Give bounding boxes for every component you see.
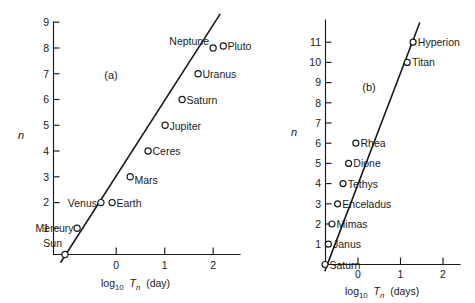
panel-a-ytick-3: 3	[43, 171, 49, 183]
datalabel-mars: Mars	[135, 174, 158, 186]
panel-a-axes	[54, 22, 241, 255]
datalabel-hyperion: Hyperion	[418, 36, 460, 48]
datalabel-mercury: Mercury	[36, 222, 75, 234]
datalabel-rhea: Rhea	[361, 137, 386, 149]
panel-a-y-axis-title: n	[18, 129, 24, 141]
panel-b-y-axis-title: n	[291, 126, 297, 138]
panel-a-xtitle-log: log	[101, 277, 115, 289]
panel-b-x-ticks	[358, 258, 443, 265]
datapoint-janus	[325, 241, 331, 247]
datapoint-hyperion	[410, 39, 416, 45]
datapoint-dione	[346, 160, 352, 166]
datapoint-earth	[109, 200, 115, 206]
datapoint-ceres	[145, 148, 151, 154]
panel-b-ytick-2: 2	[315, 218, 321, 230]
panel-b-x-ticklabels: 0 1 2	[355, 268, 446, 280]
panel-a-y-ticklabels: 9 8 7 6 5 4 3 2 1	[43, 16, 49, 234]
datapoint-rhea	[353, 140, 359, 146]
datapoint-uranus	[195, 71, 201, 77]
panel-a-label: (a)	[104, 69, 117, 81]
panel-b-xtick-2: 2	[440, 268, 446, 280]
panel-a-fit-line	[61, 14, 220, 262]
datalabel-venus: Venus	[68, 197, 97, 209]
panel-b-ytick-6: 6	[315, 137, 321, 149]
panel-a-xtick-2: 2	[210, 259, 216, 271]
panel-b: 11 10 9 8 7 6 5 4 3 2 1 n 0	[291, 20, 460, 300]
datapoint-saturn-b	[322, 262, 328, 268]
datapoint-titan	[404, 59, 410, 65]
panel-a-ytick-6: 6	[43, 93, 49, 105]
panel-b-ytick-1: 1	[315, 238, 321, 250]
datapoint-jupiter	[162, 122, 168, 128]
datapoint-neptune	[210, 45, 216, 51]
panel-b-xtick-1: 1	[398, 268, 404, 280]
datapoint-mimas	[329, 221, 335, 227]
panel-a-y-ticks	[54, 22, 60, 228]
datapoint-sun	[62, 251, 68, 257]
datalabel-mimas: Mimas	[337, 218, 368, 230]
datalabel-janus: Janus	[333, 238, 361, 250]
panel-a-xtitle-unit: (day)	[146, 277, 170, 289]
datalabel-enceladus: Enceladus	[342, 198, 391, 210]
scatter-figure: 9 8 7 6 5 4 3 2 1 n 0 1 2	[0, 0, 475, 303]
panel-a-x-axis-title: log10 Tn (day)	[101, 277, 170, 292]
datalabel-tethys: Tethys	[348, 178, 378, 190]
datalabel-saturn-b: Saturn	[330, 259, 361, 271]
datapoint-enceladus	[335, 201, 341, 207]
datapoint-pluto	[220, 43, 226, 49]
panel-b-xtitle-log: log	[345, 285, 359, 297]
panel-b-ytick-9: 9	[315, 76, 321, 88]
datalabel-sun: Sun	[43, 237, 62, 249]
panel-a-x-ticklabels: 0 1 2	[113, 259, 216, 271]
panel-a-ytick-5: 5	[43, 119, 49, 131]
panel-b-ytick-7: 7	[315, 117, 321, 129]
datalabel-ceres: Ceres	[153, 145, 181, 157]
datapoint-saturn	[179, 96, 185, 102]
panel-b-ytick-4: 4	[315, 177, 321, 189]
panel-b-datalabels: Saturn Janus Mimas Enceladus Tethys Dion…	[330, 36, 460, 270]
datalabel-uranus: Uranus	[203, 68, 237, 80]
panel-b-ytick-3: 3	[315, 198, 321, 210]
panel-a-ytick-8: 8	[43, 42, 49, 54]
panel-b-ytick-10: 10	[309, 56, 321, 68]
panel-a-ytick-2: 2	[43, 196, 49, 208]
panel-a-xtick-0: 0	[113, 259, 119, 271]
panel-b-ytick-11: 11	[310, 36, 321, 48]
datapoint-mars	[127, 174, 133, 180]
datalabel-titan: Titan	[412, 56, 435, 68]
panel-a-xtick-1: 1	[162, 259, 168, 271]
panel-a-ytick-9: 9	[43, 16, 49, 28]
panel-a-ytick-7: 7	[43, 68, 49, 80]
datalabel-pluto: Pluto	[228, 40, 252, 52]
datapoint-tethys	[340, 181, 346, 187]
panel-b-label: (b)	[362, 81, 375, 93]
datalabel-earth: Earth	[117, 197, 142, 209]
panel-b-x-axis-title: log10 Tn (days)	[345, 285, 419, 300]
panel-b-y-ticklabels: 11 10 9 8 7 6 5 4 3 2 1	[309, 36, 321, 250]
datalabel-dione: Dione	[353, 157, 381, 169]
panel-a: 9 8 7 6 5 4 3 2 1 n 0 1 2	[18, 14, 252, 291]
panel-a-datalabels: Sun Mercury Venus Earth Mars Ceres Jupit…	[36, 35, 252, 249]
panel-b-ytick-5: 5	[315, 157, 321, 169]
figure-container: 9 8 7 6 5 4 3 2 1 n 0 1 2	[0, 0, 475, 303]
datapoint-venus	[98, 200, 104, 206]
panel-a-ytick-4: 4	[43, 145, 49, 157]
datalabel-jupiter: Jupiter	[170, 120, 202, 132]
panel-b-y-ticks	[326, 42, 332, 244]
datapoint-mercury	[74, 225, 80, 231]
panel-b-xtitle-unit: (days)	[390, 285, 419, 297]
datalabel-neptune: Neptune	[169, 35, 209, 47]
panel-b-ytick-8: 8	[315, 97, 321, 109]
datalabel-saturn: Saturn	[187, 94, 218, 106]
panel-a-x-ticks	[116, 248, 213, 255]
